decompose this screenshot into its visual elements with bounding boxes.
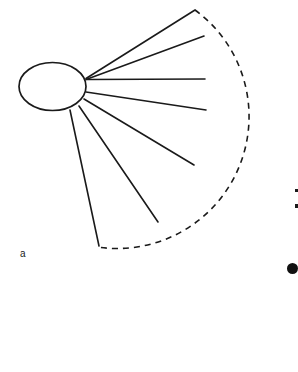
ray-1	[86, 10, 195, 79]
edge-bullet-icon	[287, 263, 298, 274]
fan-diagram	[0, 0, 298, 372]
outer-arc	[97, 10, 249, 249]
body-ellipse	[19, 63, 86, 111]
figure-panel-a: a	[0, 0, 298, 372]
ray-4	[86, 92, 206, 110]
ray-5	[84, 99, 194, 165]
edge-tick-1-icon	[295, 189, 298, 192]
panel-label-a: a	[20, 248, 26, 260]
edge-tick-2-icon	[295, 204, 298, 208]
ray-3	[87, 79, 206, 80]
ray-2	[86, 36, 204, 80]
ray-group	[70, 10, 206, 246]
